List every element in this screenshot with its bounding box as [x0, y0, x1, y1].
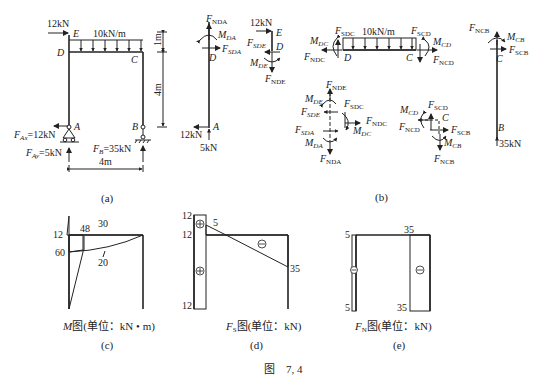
label-FSDA-joint: FSDA — [294, 124, 315, 137]
dim-1m-label: 1m — [152, 33, 163, 46]
distributed-load-label: 10kN/m — [93, 28, 126, 39]
label-C-CB: C — [496, 53, 503, 64]
label-FSCB: FSCB — [508, 44, 529, 57]
label-FSCB-joint: FSCB — [450, 124, 471, 137]
m-value-48: 48 — [80, 223, 90, 234]
label-FNDC: FNDC — [303, 51, 325, 64]
label-MDC: MDC — [309, 35, 328, 48]
label-MDA-joint: MDA — [304, 137, 323, 150]
label-D-DE: D — [275, 41, 284, 52]
label-FSCD: FSCD — [410, 25, 431, 38]
member-DC-load-box — [343, 38, 416, 50]
dim-span-label: 4m — [99, 156, 112, 167]
fs-column-rect — [194, 215, 206, 309]
fn-value-35-top: 35 — [404, 224, 414, 235]
fn-value-5-bottom: 5 — [345, 302, 350, 313]
label-FSDC-joint: FSDC — [343, 98, 364, 111]
label-FNCB-joint: FNCB — [433, 153, 455, 166]
label-MCB: MCB — [506, 31, 525, 44]
fs-value-5: 5 — [213, 217, 218, 228]
label-C-DC: C — [406, 52, 413, 63]
label-B: B — [498, 122, 504, 133]
label-FSDC: FSDC — [334, 25, 355, 38]
label-MCD: MCD — [432, 36, 451, 49]
label-10kNm-DC: 10kN/m — [362, 26, 395, 37]
m-value-20: 20 — [98, 257, 108, 268]
node-E: E — [72, 28, 79, 39]
panel-d-shear-diagram: 12 12 12 5 35 FS图(单位：kN) (d) — [182, 210, 302, 352]
fn-value-5-top: 5 — [345, 229, 350, 240]
label-MDC-joint: MDC — [352, 125, 371, 138]
figure-canvas: 12kN 10kN/m E D C A B FAx=12kN FAy=5kN F… — [0, 0, 547, 385]
label-12kN-A: 12kN — [180, 129, 202, 140]
distributed-load-arrows — [81, 40, 141, 51]
panel-e-label: (e) — [393, 339, 406, 352]
dim-4m-label: 4m — [152, 83, 163, 96]
m-value-12: 12 — [53, 229, 63, 240]
label-FNCD-joint: FNCD — [398, 121, 420, 134]
node-A: A — [73, 121, 81, 132]
label-FNDE: FNDE — [264, 73, 286, 86]
panel-d-title: FS图(单位：kN) — [225, 319, 302, 334]
label-MDE-joint: MDE — [304, 93, 323, 106]
label-FNCB: FNCB — [468, 22, 490, 35]
label-12kN-E: 12kN — [250, 17, 272, 28]
node-B: B — [132, 121, 138, 132]
label-5kN-A: 5kN — [200, 142, 217, 153]
reaction-FB-label: FB=35kN — [92, 143, 131, 156]
m-value-30: 30 — [98, 218, 108, 229]
panel-a-label: (a) — [101, 192, 114, 205]
panel-e-axial-diagram: 5 5 35 35 FN图(单位：kN) (e) — [345, 224, 432, 352]
panel-c-title: M图(单位：kN • m) — [62, 319, 155, 333]
panel-a-frame: 12kN 10kN/m E D C A B FAx=12kN FAy=5kN F… — [13, 18, 167, 205]
hinge-B — [141, 125, 145, 129]
fs-value-12-top: 12 — [182, 210, 192, 221]
label-MCB-joint: MCB — [443, 137, 462, 150]
fs-value-12-mid: 12 — [182, 229, 192, 240]
label-A: A — [212, 121, 220, 132]
panel-d-label: (d) — [250, 339, 263, 352]
panel-c-label: (c) — [101, 339, 114, 352]
figure-caption: 图 7, 4 — [264, 363, 303, 375]
label-FSDE: FSDE — [246, 37, 267, 50]
label-E: E — [275, 27, 282, 38]
label-FSDA: FSDA — [221, 43, 242, 56]
label-FNDE-joint: FNDE — [325, 79, 347, 92]
reaction-FAy-label: FAy=5kN — [25, 147, 62, 160]
reaction-FAx-label: FAx=12kN — [13, 129, 55, 142]
label-C-joint: C — [442, 112, 449, 123]
label-MDA: MDA — [217, 29, 236, 42]
panel-b-free-body: FNDA MDA FSDA D 12kN A 5kN 12kN E FSDE D… — [180, 13, 529, 204]
m-value-60: 60 — [55, 247, 65, 258]
fs-value-12-bottom: 12 — [182, 300, 192, 311]
label-FNDC-joint: FNDC — [365, 115, 387, 128]
panel-e-title: FN图(单位：kN) — [354, 319, 432, 334]
node-C: C — [131, 54, 138, 65]
label-D-DA: D — [208, 52, 217, 63]
label-FSCD-joint: FSCD — [427, 99, 448, 112]
fn-value-35-bottom: 35 — [397, 302, 407, 313]
panel-b-label: (b) — [375, 191, 388, 204]
label-FSDE-joint: FSDE — [300, 106, 321, 119]
label-D-DC: D — [343, 52, 352, 63]
label-MCD-joint: MCD — [399, 104, 418, 117]
load-12kN-label: 12kN — [47, 18, 69, 29]
node-D: D — [56, 47, 65, 58]
fs-value-35: 35 — [290, 263, 300, 274]
label-FNCD: FNCD — [432, 54, 454, 67]
dc-load-arrows — [353, 38, 412, 49]
label-35kN-B: 35kN — [499, 138, 521, 149]
label-FNDA-joint: FNDA — [319, 153, 341, 166]
panel-c-moment-diagram: 12 48 30 60 20 M图(单位：kN • m) (c) — [53, 216, 155, 352]
